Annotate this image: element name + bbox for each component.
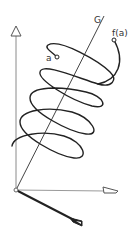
helix-curve-tail	[98, 40, 120, 84]
depth-axis	[16, 190, 76, 221]
diagram-svg: G a f(a)	[0, 0, 139, 238]
point-a	[55, 55, 59, 59]
origin-point	[14, 188, 18, 192]
horizontal-axis	[16, 190, 106, 191]
label-g: G	[94, 15, 101, 25]
label-a: a	[46, 53, 52, 63]
horizontal-axis-arrowhead-icon	[103, 187, 118, 193]
line-g	[16, 16, 104, 190]
point-f-a	[112, 38, 116, 42]
helix-diagram: G a f(a)	[0, 0, 139, 238]
vertical-axis-arrowhead-icon	[11, 26, 21, 36]
helix-curve	[12, 44, 114, 158]
label-f-a: f(a)	[112, 28, 128, 38]
